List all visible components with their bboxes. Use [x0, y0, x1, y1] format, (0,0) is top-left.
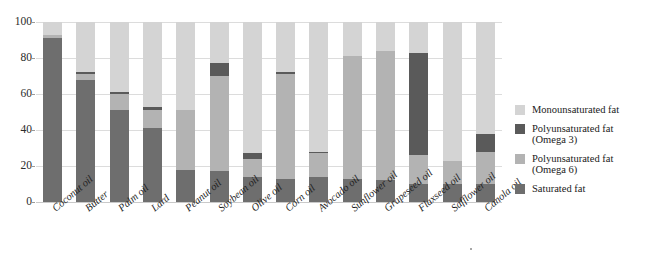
bar-stack[interactable] [43, 22, 62, 202]
x-label-cell: Corn oil [269, 203, 302, 265]
speck-artifact [470, 248, 472, 250]
y-tick-label-0: 0 [2, 196, 32, 208]
bar-segment[interactable] [243, 22, 262, 153]
bar-stack[interactable] [143, 22, 162, 202]
x-label-cell: Olive oil [236, 203, 269, 265]
bar-segment[interactable] [343, 22, 362, 56]
bar-column[interactable] [202, 22, 235, 202]
x-label-cell: Flaxseed oil [402, 203, 435, 265]
x-label-cell: Butter [69, 203, 102, 265]
bar-segment[interactable] [176, 110, 195, 169]
y-tick-mark-40 [31, 130, 35, 131]
bar-segment[interactable] [443, 22, 462, 161]
legend-label: Monounsaturated fat [532, 104, 619, 116]
bar-segment[interactable] [376, 22, 395, 51]
bar-column[interactable] [302, 22, 335, 202]
bar-segment[interactable] [476, 22, 495, 134]
y-tick-mark-20 [31, 166, 35, 167]
legend-swatch [515, 154, 525, 164]
legend-item[interactable]: Saturated fat [515, 183, 653, 195]
legend-item[interactable]: Polyunsaturated fat(Omega 6) [515, 153, 653, 176]
bar-segment[interactable] [143, 22, 162, 107]
bar-column[interactable] [169, 22, 202, 202]
x-label-cell: Avocado oil [302, 203, 335, 265]
legend-label: Polyunsaturated fat(Omega 6) [532, 153, 613, 176]
x-label-cell: Canola oil [469, 203, 502, 265]
bar-segment[interactable] [309, 22, 328, 152]
bar-segment[interactable] [143, 110, 162, 128]
y-tick-mark-60 [31, 94, 35, 95]
x-label-cell: Sunflower oil [336, 203, 369, 265]
legend: Monounsaturated fatPolyunsaturated fat(O… [515, 104, 653, 201]
x-label-cell: Grapeseed oil [369, 203, 402, 265]
bar-segment[interactable] [43, 38, 62, 202]
bar-segment[interactable] [76, 22, 95, 72]
bar-stack[interactable] [276, 22, 295, 202]
bar-segment[interactable] [43, 22, 62, 35]
bar-segment[interactable] [276, 74, 295, 178]
bar-segment[interactable] [476, 134, 495, 152]
legend-label-sub: (Omega 3) [532, 134, 613, 146]
bar-segment[interactable] [176, 22, 195, 110]
legend-item[interactable]: Monounsaturated fat [515, 104, 653, 116]
x-axis-labels: Coconut oilButterPalm oilLardPeanut oilS… [36, 203, 502, 265]
bar-segment[interactable] [276, 22, 295, 72]
bar-segment[interactable] [110, 22, 129, 92]
x-label-cell: Safflower oil [435, 203, 468, 265]
y-tick-label-100: 100 [2, 16, 32, 28]
stacked-bar-chart: 100806040200 Coconut oilButterPalm oilLa… [0, 0, 655, 265]
y-tick-label-40: 40 [2, 124, 32, 136]
y-tick-label-60: 60 [2, 88, 32, 100]
bar-segment[interactable] [110, 110, 129, 202]
y-tick-mark-100 [31, 22, 35, 23]
bar-stack[interactable] [309, 22, 328, 202]
x-label-cell: Lard [136, 203, 169, 265]
bar-segment[interactable] [409, 53, 428, 156]
legend-swatch [515, 184, 525, 194]
legend-swatch [515, 124, 525, 134]
bar-segment[interactable] [376, 51, 395, 181]
bar-segment[interactable] [409, 22, 428, 53]
bar-segment[interactable] [210, 76, 229, 171]
legend-item[interactable]: Polyunsaturated fat(Omega 3) [515, 123, 653, 146]
bar-stack[interactable] [176, 22, 195, 202]
legend-label: Polyunsaturated fat(Omega 3) [532, 123, 613, 146]
bar-stack[interactable] [110, 22, 129, 202]
y-tick-label-80: 80 [2, 52, 32, 64]
x-label-cell: Coconut oil [36, 203, 69, 265]
bar-column[interactable] [103, 22, 136, 202]
legend-swatch [515, 105, 525, 115]
bar-column[interactable] [36, 22, 69, 202]
x-label-cell: Palm oil [103, 203, 136, 265]
x-label-cell: Soybean oil [202, 203, 235, 265]
bar-column[interactable] [269, 22, 302, 202]
bar-segment[interactable] [210, 63, 229, 76]
bar-stack[interactable] [210, 22, 229, 202]
x-label-cell: Peanut oil [169, 203, 202, 265]
bar-segment[interactable] [309, 153, 328, 176]
legend-label-sub: (Omega 6) [532, 164, 613, 176]
legend-label: Saturated fat [532, 183, 585, 195]
y-tick-mark-80 [31, 58, 35, 59]
bar-segment[interactable] [210, 22, 229, 63]
y-tick-label-20: 20 [2, 160, 32, 172]
y-tick-mark-0 [31, 202, 35, 203]
bar-segment[interactable] [110, 94, 129, 110]
bar-segment[interactable] [343, 56, 362, 178]
bar-column[interactable] [136, 22, 169, 202]
